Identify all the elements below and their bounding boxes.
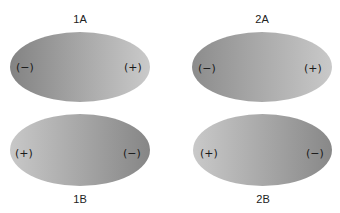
negative-charge-label: (−) [198, 62, 216, 75]
panel-label-1a: 1A [60, 13, 100, 25]
positive-charge-label: (+) [15, 147, 33, 160]
positive-charge-label: (+) [124, 61, 142, 74]
negative-charge-label: (−) [123, 147, 141, 160]
positive-charge-label: (+) [304, 62, 322, 75]
positive-charge-label: (+) [200, 147, 218, 160]
charge-gradient-diagram: 1A (−) (+) 2A (−) (+) (+) (−) 1B (+) (−)… [0, 0, 340, 213]
negative-charge-label: (−) [16, 61, 34, 74]
panel-label-1b: 1B [60, 193, 100, 205]
negative-charge-label: (−) [306, 147, 324, 160]
panel-label-2b: 2B [243, 193, 283, 205]
panel-label-2a: 2A [242, 13, 282, 25]
